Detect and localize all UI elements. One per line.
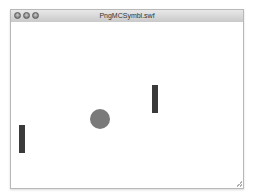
window-title: PngMCSymbl.swf [11,10,243,22]
ball [90,109,110,129]
swf-stage[interactable] [11,22,243,188]
flash-player-window: PngMCSymbl.swf [10,9,244,189]
right-paddle [152,85,158,113]
resize-grip-icon[interactable] [236,181,242,187]
left-paddle [19,125,25,153]
